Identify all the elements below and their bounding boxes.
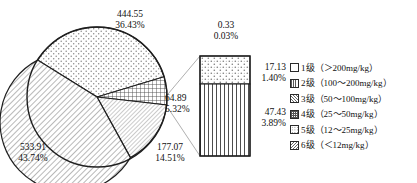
legend-item-level-6[interactable]: 6级（＜12mg/kg） [290, 138, 417, 154]
label-level-3: 177.07 14.51% [140, 142, 200, 164]
legend-item-level-4[interactable]: 4级（25～50mg/kg） [290, 107, 417, 123]
label-level-5: 444.55 36.43% [95, 9, 165, 31]
bar-segment-level-1 [200, 56, 250, 84]
legend-label-level-5: 5级（12～25mg/kg） [301, 125, 383, 135]
label-level-6: 533.91 43.74% [2, 142, 64, 164]
label-bar-level-2-percent: 1.40% [252, 73, 286, 84]
label-level-4: 64.89 5.32% [165, 93, 209, 115]
label-bar-level-2-value: 17.13 [252, 62, 286, 73]
label-bar-level-1: 0.33 0.03% [196, 20, 256, 42]
legend-label-level-3: 3级（50～100mg/kg） [301, 94, 387, 104]
legend-item-level-5[interactable]: 5级（12～25mg/kg） [290, 122, 417, 138]
legend-item-level-2[interactable]: 2级（100～200mg/kg） [290, 76, 417, 92]
label-bar-level-1-percent: 0.03% [196, 31, 256, 42]
label-level-3-value: 177.07 [140, 142, 200, 153]
legend-label-level-1: 1级（＞200mg/kg） [301, 63, 378, 73]
swatch-level-2-icon [290, 79, 299, 88]
label-level-6-value: 533.91 [2, 142, 64, 153]
label-bar-level-3-value: 47.43 [252, 107, 286, 118]
swatch-level-5-icon [290, 125, 299, 134]
label-bar-level-3-percent: 3.89% [252, 118, 286, 129]
label-bar-level-3: 47.43 3.89% [252, 107, 286, 129]
swatch-level-6-icon [290, 141, 299, 150]
label-bar-level-2: 17.13 1.40% [252, 62, 286, 84]
swatch-level-1-icon [290, 63, 299, 72]
label-level-4-value: 64.89 [165, 93, 209, 104]
label-level-3-percent: 14.51% [140, 153, 200, 164]
label-level-5-value: 444.55 [95, 9, 165, 20]
swatch-level-4-icon [290, 110, 299, 119]
legend-label-level-4: 4级（25～50mg/kg） [301, 109, 383, 119]
swatch-level-3-icon [290, 94, 299, 103]
legend-label-level-2: 2级（100～200mg/kg） [301, 78, 392, 88]
legend: 1级（＞200mg/kg） 2级（100～200mg/kg） 3级（50～100… [290, 60, 417, 153]
label-level-6-percent: 43.74% [2, 153, 64, 164]
label-bar-level-1-value: 0.33 [196, 20, 256, 31]
label-level-4-percent: 5.32% [165, 104, 209, 115]
bar-of-pie-chart: 444.55 36.43% 533.91 43.74% 177.07 14.51… [0, 0, 417, 183]
label-level-5-percent: 36.43% [95, 20, 165, 31]
legend-item-level-1[interactable]: 1级（＞200mg/kg） [290, 60, 417, 76]
legend-label-level-6: 6级（＜12mg/kg） [301, 140, 374, 150]
legend-item-level-3[interactable]: 3级（50～100mg/kg） [290, 91, 417, 107]
